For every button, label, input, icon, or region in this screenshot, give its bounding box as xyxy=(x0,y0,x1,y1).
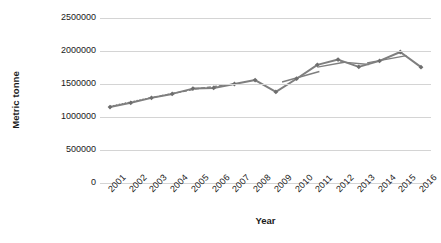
plot-svg xyxy=(100,18,431,183)
line-chart: Metric tonne 250000020000001500000100000… xyxy=(0,0,441,243)
data-point-marker xyxy=(108,105,113,110)
x-axis-title: Year xyxy=(100,215,431,226)
data-point-marker xyxy=(336,57,341,62)
y-axis-tick-label: 500000 xyxy=(24,145,96,154)
y-axis-tick-labels: 25000002000000150000010000005000000 xyxy=(24,0,96,243)
y-axis-tick-label: 1000000 xyxy=(24,112,96,121)
plot-area xyxy=(100,18,431,183)
data-point-marker xyxy=(170,92,175,97)
gridline xyxy=(100,18,431,19)
data-point-marker xyxy=(356,64,361,69)
y-axis-tick-label: 2000000 xyxy=(24,46,96,55)
gridline xyxy=(100,51,431,52)
gridline xyxy=(100,150,431,151)
y-axis-tick-label: 2500000 xyxy=(24,13,96,22)
y-axis-tick-label: 0 xyxy=(24,178,96,187)
y-axis-tick-label: 1500000 xyxy=(24,79,96,88)
gridline xyxy=(100,84,431,85)
y-axis-title: Metric tonne xyxy=(10,45,24,155)
gridline xyxy=(100,117,431,118)
data-point-marker xyxy=(149,95,154,100)
data-point-marker xyxy=(128,100,133,105)
series-line xyxy=(110,52,421,107)
